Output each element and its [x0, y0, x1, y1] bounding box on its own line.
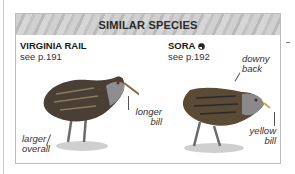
similar-species-panel: SIMILAR SPECIES VIRGINIA RAIL see p.191 …: [15, 13, 281, 164]
page-edge-line: [3, 0, 4, 174]
note-downy-back: downy back: [242, 54, 269, 74]
half-filled-circle-icon: [198, 43, 205, 50]
leader-line-bill-sora: [274, 112, 275, 126]
panel-header: SIMILAR SPECIES: [16, 14, 280, 35]
note-yellow-bill: yellow bill: [240, 126, 276, 146]
species-name-virginia-rail: VIRGINIA RAIL: [20, 40, 87, 51]
note-longer-bill: longer bill: [128, 107, 162, 127]
species-name-sora: SORA: [168, 40, 205, 51]
see-page-sora: see p.192: [168, 51, 210, 62]
panel-title: SIMILAR SPECIES: [99, 19, 198, 31]
sora-name-label: SORA: [168, 40, 195, 51]
note-larger-overall: larger overall: [22, 134, 50, 154]
margin-mark: [286, 42, 290, 43]
